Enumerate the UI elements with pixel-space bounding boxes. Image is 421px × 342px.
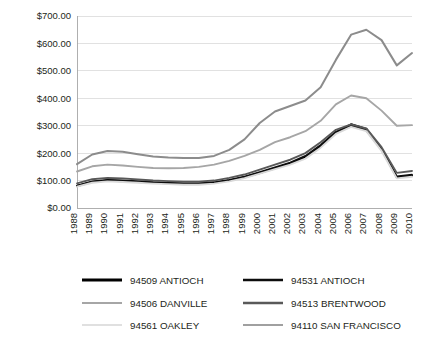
y-axis-tick-label: $200.00 [37,148,71,159]
x-axis-tick-label: 1993 [144,213,155,234]
series-line [77,124,412,183]
legend-label: 94509 ANTIOCH [130,275,204,286]
x-axis-tick-label: 2007 [357,213,368,234]
x-axis-tick-label: 2000 [251,213,262,234]
data-series-lines [77,30,412,187]
x-axis-tick-label: 1990 [98,213,109,234]
series-line [77,96,412,172]
x-axis-tick-label: 2010 [403,213,414,234]
line-chart-figure: $0.00$100.00$200.00$300.00$400.00$500.00… [0,0,421,342]
x-axis-tick-label: 1994 [159,213,170,234]
x-axis-tick-label: 1992 [129,213,140,234]
x-axis-tick-label: 1989 [83,213,94,234]
x-axis-tick-label: 2001 [266,213,277,234]
y-axis-tick-label: $400.00 [37,93,71,104]
legend-label: 94513 BRENTWOOD [291,298,386,309]
legend-label: 94506 DANVILLE [130,298,208,309]
x-axis-tick-label: 1995 [175,213,186,234]
x-axis-tick-label: 2004 [312,213,323,234]
y-axis-tick-label: $0.00 [47,202,71,213]
x-axis-tick-label: 1996 [190,213,201,234]
chart-canvas: $0.00$100.00$200.00$300.00$400.00$500.00… [0,0,421,342]
legend-label: 94110 SAN FRANCISCO [291,320,401,331]
y-axis-tick-label: $100.00 [37,175,71,186]
x-axis-tick-label: 2009 [388,213,399,234]
x-axis-tick-label: 1991 [114,213,125,234]
legend-label: 94531 ANTIOCH [291,275,365,286]
y-axis-tick-label: $500.00 [37,65,71,76]
y-axis-tick-labels: $0.00$100.00$200.00$300.00$400.00$500.00… [37,10,71,213]
legend-label: 94561 OAKLEY [130,320,200,331]
y-axis-tick-label: $700.00 [37,10,71,21]
x-axis-tick-labels: 1988198919901991199219931994199519961997… [68,213,414,234]
x-axis-tick-label: 1998 [220,213,231,234]
x-axis-tick-label: 2006 [342,213,353,234]
x-axis-tick-label: 2005 [327,213,338,234]
x-axis-tick-label: 2008 [373,213,384,234]
x-axis-tick-label: 1988 [68,213,79,234]
chart-legend: 94509 ANTIOCH94531 ANTIOCH94506 DANVILLE… [82,275,401,331]
y-axis-tick-label: $300.00 [37,120,71,131]
x-axis-tick-label: 2003 [296,213,307,234]
y-axis-tick-label: $600.00 [37,38,71,49]
x-axis-tick-label: 2002 [281,213,292,234]
x-axis-tick-label: 1997 [205,213,216,234]
x-axis-tick-label: 1999 [236,213,247,234]
